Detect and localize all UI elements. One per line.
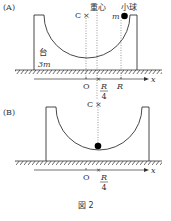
figure-canvas: (A) 台 3m x C × 重心 m 小球 × O R 4 R (0, 0, 171, 221)
quarter-numerator-b: R (100, 173, 107, 182)
panel-a: (A) 台 3m x C × 重心 m 小球 × O R 4 R (3, 2, 162, 101)
ball-b (95, 143, 102, 150)
point-c-a: C (75, 11, 81, 20)
panel-b-label: (B) (3, 108, 15, 117)
ground-hatch-b (15, 161, 162, 165)
cross-marker-c-b: × (95, 100, 102, 109)
com-tick-marker-a: × (96, 75, 101, 82)
quarter-denominator-b: 4 (102, 183, 107, 192)
panel-a-label: (A) (3, 3, 15, 12)
quarter-denominator-a: 4 (102, 92, 107, 101)
point-c-b: C (87, 100, 93, 109)
x-axis-label-b: x (151, 166, 156, 175)
x-axis-arrow-a (144, 77, 149, 81)
platform-mass: 3m (38, 60, 51, 69)
cross-marker-c-a: × (83, 11, 90, 20)
x-axis-arrow-b (144, 168, 149, 172)
com-tick-marker-b: × (96, 166, 101, 173)
center-of-mass-label: 重心 (90, 2, 106, 12)
figure-caption: 図 2 (78, 201, 94, 210)
platform-b (46, 107, 149, 161)
x-axis-label-a: x (151, 75, 156, 84)
radius-label-a: R (116, 82, 123, 91)
panel-b: (B) x C × × O R 4 (3, 100, 162, 192)
ball-a (121, 13, 128, 20)
origin-label-b: O (83, 173, 90, 182)
platform-label: 台 (39, 47, 48, 57)
ground-hatch-a (15, 70, 162, 74)
ball-label: 小球 (121, 2, 137, 12)
quarter-numerator-a: R (100, 82, 107, 91)
ball-mass: m (112, 12, 120, 21)
origin-label-a: O (83, 82, 90, 91)
